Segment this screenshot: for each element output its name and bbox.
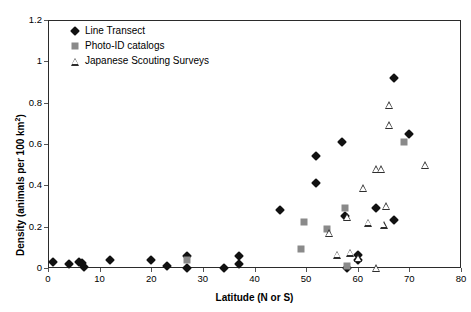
x-axis-tick (255, 268, 256, 272)
legend: Line TransectPhoto-ID catalogsJapanese S… (68, 23, 209, 68)
marker-triangle-inner (355, 256, 361, 261)
y-axis-tick-label: 1 (2, 56, 42, 66)
marker-triangle (333, 251, 341, 259)
marker-triangle (385, 101, 393, 109)
y-axis-title: Density (animals per 100 km2) (14, 114, 26, 256)
legend-marker-diamond-icon (68, 24, 84, 38)
marker-triangle-inner (365, 220, 371, 225)
marker-triangle (382, 202, 390, 210)
legend-item-square: Photo-ID catalogs (68, 38, 209, 53)
x-axis-tick (203, 268, 204, 272)
marker-triangle (359, 184, 367, 192)
y-axis-tick (44, 144, 48, 145)
marker-triangle (385, 121, 393, 129)
x-axis-tick-label: 20 (131, 274, 171, 284)
x-axis-tick (358, 268, 359, 272)
x-axis-tick-label: 80 (441, 274, 471, 284)
marker-square (344, 262, 351, 269)
marker-triangle-inner (373, 266, 379, 271)
marker-diamond (70, 26, 80, 36)
marker-triangle (325, 229, 333, 237)
marker-triangle (364, 219, 372, 227)
marker-triangle-inner (386, 103, 392, 108)
x-axis-tick-label: 10 (80, 274, 120, 284)
y-axis-tick (44, 227, 48, 228)
x-axis-tick (100, 268, 101, 272)
legend-marker-square-icon (68, 39, 84, 53)
legend-item-diamond: Line Transect (68, 23, 209, 38)
legend-item-label: Line Transect (85, 25, 145, 36)
marker-triangle-inner (360, 186, 366, 191)
y-axis-title-exponent: 2 (14, 118, 21, 122)
marker-square (184, 256, 191, 263)
x-axis-tick-label: 0 (28, 274, 68, 284)
y-axis-tick-label: 1.2 (2, 15, 42, 25)
x-axis-tick (151, 268, 152, 272)
x-axis-tick-label: 70 (389, 274, 429, 284)
y-axis-tick-label: 0 (2, 263, 42, 273)
marker-triangle (380, 221, 388, 229)
marker-square (297, 246, 304, 253)
marker-triangle (354, 254, 362, 262)
marker-triangle-inner (344, 215, 350, 220)
x-axis-title: Latitude (N or S) (48, 292, 461, 303)
marker-square (401, 138, 408, 145)
marker-triangle (372, 264, 380, 272)
y-axis-tick-label: 0.8 (2, 98, 42, 108)
marker-triangle-inner (326, 231, 332, 236)
x-axis-tick (306, 268, 307, 272)
scatter-chart: 00.20.40.60.811.201020304050607080 Latit… (0, 0, 471, 312)
legend-marker-triangle-icon (68, 54, 84, 68)
marker-triangle (377, 165, 385, 173)
marker-square (72, 42, 79, 49)
marker-triangle-inner (383, 204, 389, 209)
marker-triangle-inner (347, 250, 353, 255)
y-axis-title-tail: ) (15, 114, 26, 117)
y-axis-tick (44, 61, 48, 62)
x-axis-tick-label: 40 (235, 274, 275, 284)
x-axis-tick-label: 50 (286, 274, 326, 284)
marker-square (300, 218, 307, 225)
marker-triangle (343, 213, 351, 221)
legend-item-label: Japanese Scouting Surveys (85, 55, 209, 66)
marker-triangle-inner (378, 167, 384, 172)
marker-triangle (71, 58, 79, 66)
marker-triangle-inner (422, 163, 428, 168)
y-axis-tick (44, 20, 48, 21)
x-axis-tick-label: 30 (183, 274, 223, 284)
x-axis-tick (48, 268, 49, 272)
legend-item-label: Photo-ID catalogs (85, 40, 165, 51)
marker-triangle (421, 161, 429, 169)
marker-triangle-inner (386, 123, 392, 128)
marker-triangle-inner (334, 252, 340, 257)
y-axis-tick (44, 103, 48, 104)
x-axis-tick (461, 268, 462, 272)
x-axis-tick-label: 60 (338, 274, 378, 284)
x-axis-tick (409, 268, 410, 272)
y-axis-title-base: Density (animals per 100 km (15, 121, 26, 256)
legend-item-triangle: Japanese Scouting Surveys (68, 53, 209, 68)
y-axis-tick (44, 185, 48, 186)
marker-triangle-inner (380, 222, 386, 227)
marker-triangle-inner (72, 59, 78, 64)
marker-square (341, 205, 348, 212)
